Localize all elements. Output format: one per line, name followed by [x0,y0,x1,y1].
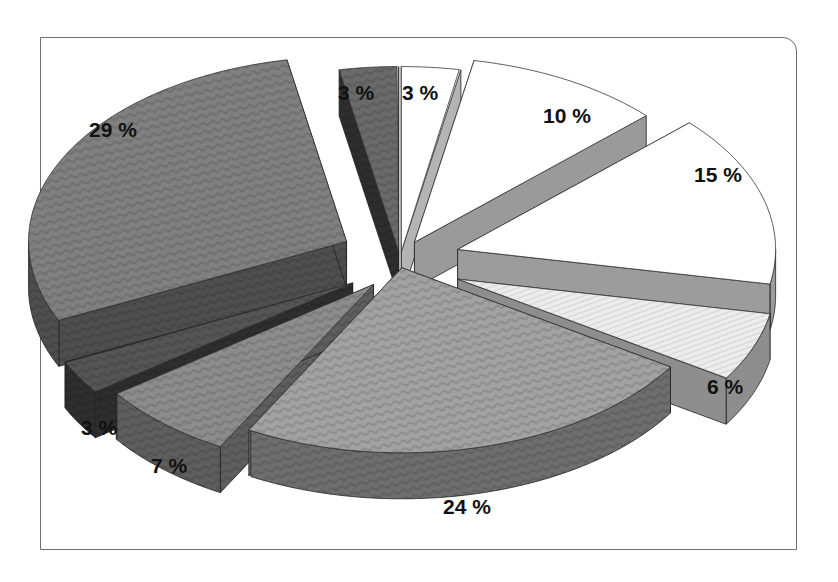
slice-label: 3 % [81,416,117,440]
slice-label: 29 % [89,118,137,142]
slice-label: 10 % [543,104,591,128]
slice-label: 3 % [338,81,374,105]
slice-label: 3 % [402,81,438,105]
slice-label: 6 % [707,375,743,399]
slice-label: 15 % [694,163,742,187]
slice-label: 24 % [443,495,491,519]
pie-slices [29,60,776,499]
slice-label: 7 % [151,454,187,478]
